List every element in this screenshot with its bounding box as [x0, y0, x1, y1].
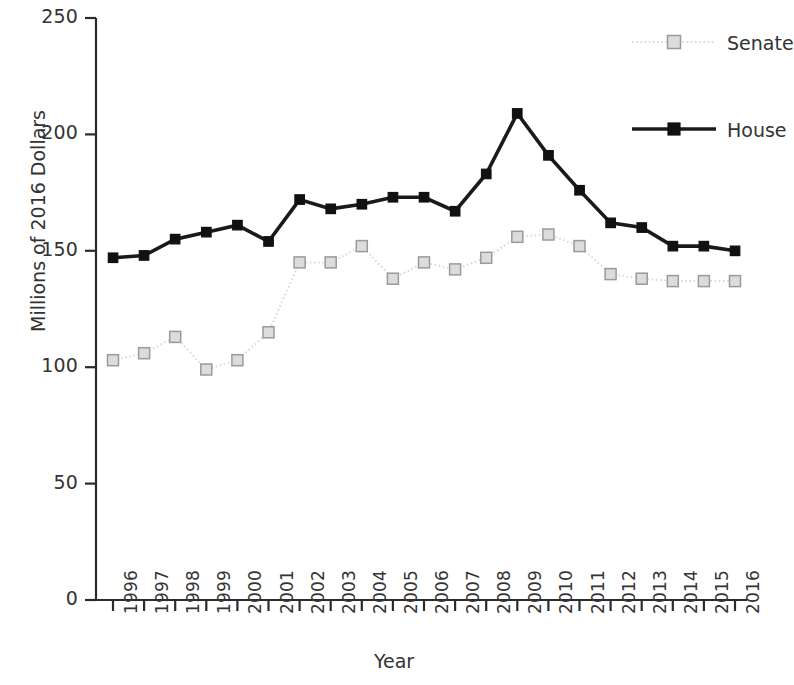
x-tick-label: 2009 [525, 570, 545, 614]
x-tick-label: 2008 [494, 570, 514, 614]
y-axis-title: Millions of 2016 Dollars [27, 101, 49, 341]
x-tick-label: 2000 [245, 570, 265, 614]
x-tick-label: 2013 [650, 570, 670, 614]
data-point-house-2012 [606, 218, 616, 228]
data-point-senate-1996 [108, 355, 119, 366]
axis-ticks [85, 18, 735, 611]
data-point-house-2015 [699, 241, 709, 251]
data-point-house-2000 [233, 220, 243, 230]
x-tick-label: 2011 [588, 570, 608, 614]
x-tick-label: 2007 [463, 570, 483, 614]
data-point-house-2002 [295, 195, 305, 205]
data-point-senate-2014 [667, 276, 678, 287]
data-point-senate-2003 [325, 257, 336, 268]
data-point-senate-2010 [543, 229, 554, 240]
data-point-senate-2015 [698, 276, 709, 287]
data-point-senate-2000 [232, 355, 243, 366]
x-tick-label: 1997 [152, 570, 172, 614]
data-point-house-2013 [637, 223, 647, 233]
data-point-house-2009 [513, 109, 523, 119]
legend-label-house: House [727, 119, 787, 141]
data-point-house-2006 [419, 193, 429, 203]
x-tick-label: 2002 [308, 570, 328, 614]
data-point-house-2004 [357, 200, 367, 210]
y-tick-label: 0 [18, 587, 78, 609]
data-point-senate-2016 [730, 276, 741, 287]
data-point-senate-1997 [139, 348, 150, 359]
data-point-senate-2002 [294, 257, 305, 268]
data-point-senate-2005 [387, 273, 398, 284]
data-point-house-2007 [450, 207, 460, 217]
series-line-senate [113, 235, 735, 370]
y-tick-label: 50 [18, 471, 78, 493]
x-tick-label: 2012 [619, 570, 639, 614]
data-point-house-2016 [730, 246, 740, 256]
data-point-house-2008 [482, 169, 492, 179]
data-point-senate-2011 [574, 241, 585, 252]
data-point-senate-2007 [450, 264, 461, 275]
data-point-senate-2001 [263, 327, 274, 338]
x-tick-label: 2005 [401, 570, 421, 614]
y-tick-label: 100 [18, 354, 78, 376]
x-tick-label: 2010 [556, 570, 576, 614]
x-tick-label: 1998 [183, 570, 203, 614]
x-tick-label: 1996 [121, 570, 141, 614]
data-point-house-1999 [202, 227, 212, 237]
data-point-house-2010 [544, 151, 554, 161]
legend-marker-senate [668, 36, 681, 49]
x-tick-label: 2001 [277, 570, 297, 614]
data-series-group [108, 109, 741, 375]
data-point-senate-2004 [356, 241, 367, 252]
x-tick-label: 2004 [370, 570, 390, 614]
data-point-senate-1998 [170, 331, 181, 342]
data-point-house-1996 [108, 253, 118, 263]
data-point-senate-2013 [636, 273, 647, 284]
axes-spines [96, 18, 747, 600]
x-tick-label: 2003 [339, 570, 359, 614]
y-tick-label: 250 [18, 5, 78, 27]
x-tick-label: 1999 [214, 570, 234, 614]
data-point-house-2014 [668, 241, 678, 251]
data-point-senate-2009 [512, 231, 523, 242]
x-tick-label: 2006 [432, 570, 452, 614]
x-tick-label: 2014 [681, 570, 701, 614]
legend-label-senate: Senate [727, 32, 794, 54]
data-point-house-2011 [575, 186, 585, 196]
x-axis-title: Year [0, 650, 788, 672]
legend-glyphs [632, 36, 716, 136]
data-point-senate-2012 [605, 269, 616, 280]
data-point-house-1998 [170, 234, 180, 244]
data-point-house-2001 [264, 237, 274, 247]
x-tick-label: 2016 [743, 570, 763, 614]
data-point-house-2005 [388, 193, 398, 203]
data-point-house-1997 [139, 251, 149, 261]
data-point-senate-2006 [419, 257, 430, 268]
data-point-senate-1999 [201, 364, 212, 375]
legend-marker-house [668, 123, 680, 135]
data-point-house-2003 [326, 204, 336, 214]
data-point-senate-2008 [481, 252, 492, 263]
x-tick-label: 2015 [712, 570, 732, 614]
